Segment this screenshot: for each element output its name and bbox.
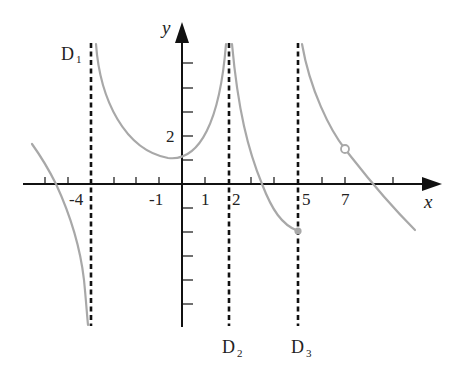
x-axis-label: x: [423, 191, 433, 212]
y-tick-label-2: 2: [166, 127, 175, 146]
curve-branch-3: [232, 44, 298, 231]
d2-subscript: 2: [237, 347, 243, 359]
asymptote-label-d2: D 2: [222, 337, 243, 359]
x-tick-label-1: 1: [201, 190, 210, 209]
open-point-hole: [341, 145, 349, 153]
curve-branch-4: [302, 44, 415, 230]
curve-branch-1: [32, 144, 88, 325]
x-axis-ticks: [45, 177, 393, 184]
x-tick-label-2: 2: [232, 190, 241, 209]
y-axis-arrow-icon: [175, 22, 189, 43]
asymptote-label-d3: D 3: [291, 337, 312, 359]
x-axis: [23, 177, 442, 191]
d1-subscript: 1: [76, 53, 82, 65]
y-axis: [175, 22, 193, 327]
d3-subscript: 3: [306, 347, 312, 359]
d1-label: D: [61, 44, 74, 64]
d3-label: D: [291, 337, 304, 357]
x-tick-label-7: 7: [341, 190, 350, 209]
y-axis-label: y: [160, 17, 171, 38]
curve-branch-2: [96, 44, 226, 158]
x-tick-label-minus-1: -1: [149, 190, 163, 209]
x-axis-arrow-icon: [422, 177, 442, 191]
x-tick-label-minus-4: -4: [69, 190, 84, 209]
d2-label: D: [222, 337, 235, 357]
closed-point-endpoint: [294, 227, 301, 234]
asymptote-label-d1: D 1: [61, 44, 82, 65]
x-tick-label-5: 5: [302, 190, 311, 209]
function-graph: y x -4 -1 1 2 5 7 2 D 1 D 2 D 3: [0, 0, 454, 378]
